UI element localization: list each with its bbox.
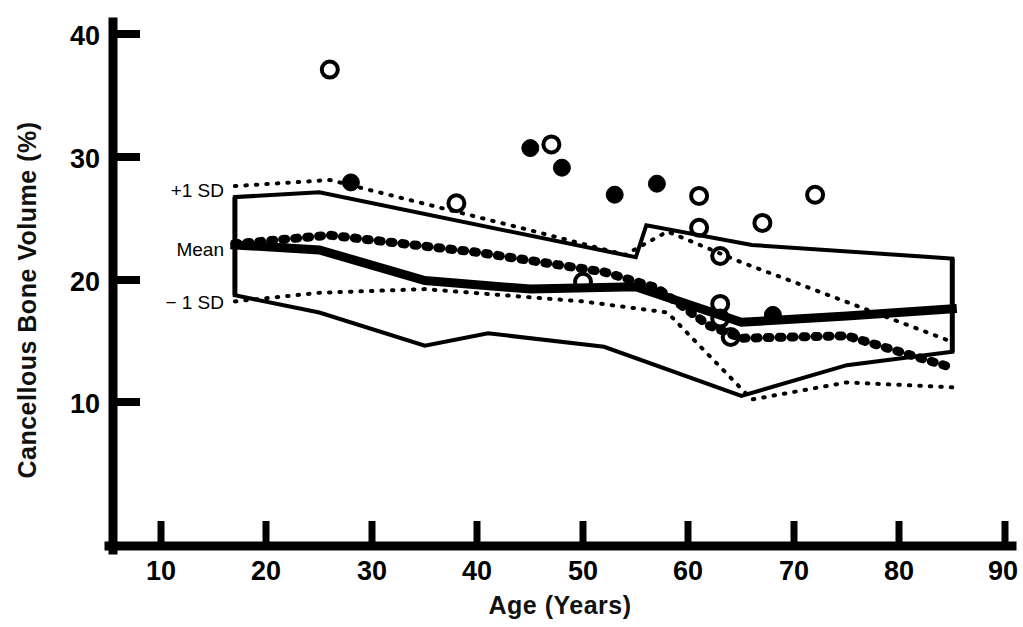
open-circle-marker (712, 248, 728, 264)
x-tick-label: 10 (146, 556, 176, 586)
x-tick-label: 20 (251, 556, 281, 586)
x-tick-label: 60 (673, 556, 703, 586)
y-axis-title: Cancellous Bone Volume (%) (13, 121, 41, 478)
open-circle-marker (322, 62, 338, 78)
y-tick-label: 20 (70, 267, 100, 297)
x-tick-label: 70 (779, 556, 809, 586)
open-circle-marker (807, 187, 823, 203)
series-line (235, 245, 952, 322)
x-tick-label: 90 (988, 556, 1018, 586)
x-axis-tick-labels: 10 20 30 40 50 60 70 80 90 (146, 556, 1018, 586)
band-annotations: +1 SD Mean − 1 SD (165, 180, 224, 313)
mean-label: Mean (176, 239, 224, 260)
plus-1-sd-label: +1 SD (171, 180, 224, 201)
y-tick-label: 40 (70, 21, 100, 51)
filled-circle-marker (606, 186, 623, 203)
chart-figure: Cancellous Bone Volume (%) Age (Years) 4… (0, 0, 1023, 627)
series-reference-solid-band-mean (235, 245, 952, 322)
filled-circle-marker (342, 174, 359, 191)
minus-1-sd-label: − 1 SD (165, 292, 224, 313)
y-axis-tick-labels: 40 30 20 10 (70, 21, 100, 419)
y-tick-label: 30 (70, 144, 100, 174)
cancellous-bone-volume-scatter-chart: Cancellous Bone Volume (%) Age (Years) 4… (0, 0, 1023, 627)
open-circle-marker (691, 188, 707, 204)
filled-circle-marker (648, 175, 665, 192)
y-tick-label: 10 (70, 389, 100, 419)
series-open-circles (322, 62, 823, 345)
x-axis-title: Age (Years) (488, 591, 631, 619)
filled-circle-marker (553, 159, 570, 176)
x-tick-label: 50 (568, 556, 598, 586)
x-tick-label: 80 (884, 556, 914, 586)
series-line (235, 295, 952, 396)
plot-data-layer (235, 62, 952, 400)
series-reference-solid-band-lower-1-sd (235, 295, 952, 396)
open-circle-marker (543, 136, 559, 152)
filled-circle-marker (522, 140, 539, 157)
open-circle-marker (754, 215, 770, 231)
x-tick-label: 40 (462, 556, 492, 586)
x-tick-label: 30 (357, 556, 387, 586)
